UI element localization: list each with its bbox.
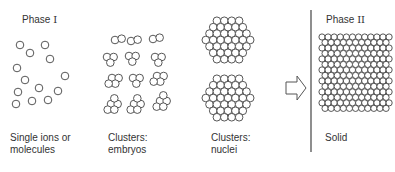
label-nuclei-line2: nuclei — [211, 144, 250, 156]
phase-2-title: Phase II — [326, 14, 365, 25]
particle — [111, 95, 119, 103]
particle — [61, 72, 69, 80]
label-nuclei: Clusters: nuclei — [211, 132, 250, 156]
nuclei-clusters — [202, 17, 254, 121]
particle — [150, 78, 158, 86]
particle — [133, 80, 141, 88]
particle — [228, 55, 236, 63]
particle — [228, 113, 236, 121]
particle — [41, 41, 49, 49]
particle — [129, 58, 137, 66]
particle — [134, 106, 142, 114]
particle — [383, 105, 389, 111]
particle — [134, 95, 142, 103]
embryo-clusters — [103, 34, 170, 114]
phase-2-word: Phase — [326, 14, 354, 25]
particle — [28, 97, 36, 105]
particle — [134, 36, 142, 44]
particle — [213, 113, 221, 121]
particle — [35, 84, 43, 92]
particle — [235, 113, 243, 121]
particle — [44, 96, 52, 104]
particle — [328, 105, 334, 111]
particle — [221, 55, 229, 63]
particle — [340, 105, 346, 111]
particle — [26, 49, 34, 57]
particle — [352, 105, 358, 111]
label-embryos: Clusters: embryos — [108, 132, 147, 156]
label-nuclei-line1: Clusters: — [211, 132, 250, 144]
particle — [107, 59, 115, 67]
phase-1-word: Phase — [22, 14, 50, 25]
particle — [105, 80, 113, 88]
label-single-ions: Single ions or molecules — [10, 132, 71, 156]
particle — [334, 105, 340, 111]
label-single-line2: molecules — [10, 144, 71, 156]
phase-2-numeral: II — [357, 14, 365, 25]
particle — [156, 34, 164, 42]
particle — [371, 105, 377, 111]
particle — [346, 105, 352, 111]
label-single-line1: Single ions or — [10, 132, 71, 144]
single-particles — [12, 41, 69, 108]
label-embryos-line2: embryos — [108, 144, 147, 156]
particle — [155, 59, 163, 67]
solid-lattice — [319, 34, 392, 112]
particle — [12, 100, 20, 108]
phase-1-title: Phase I — [22, 14, 57, 25]
hollow-right-arrow-icon — [286, 76, 306, 100]
particle — [213, 55, 221, 63]
particle — [359, 105, 365, 111]
label-solid-line1: Solid — [325, 132, 347, 144]
particle — [16, 41, 24, 49]
label-solid: Solid — [325, 132, 347, 144]
particle — [365, 105, 371, 111]
particle — [118, 35, 126, 43]
particle — [14, 88, 22, 96]
particle — [21, 76, 29, 84]
particle — [54, 87, 62, 95]
particle — [111, 106, 119, 114]
label-embryos-line1: Clusters: — [108, 132, 147, 144]
particle — [221, 113, 229, 121]
particle — [235, 55, 243, 63]
particle — [377, 105, 383, 111]
particle — [13, 64, 21, 72]
phase-1-numeral: I — [53, 14, 57, 25]
particle — [322, 105, 328, 111]
particle — [160, 103, 168, 111]
particle — [46, 55, 54, 63]
particle — [160, 92, 168, 100]
